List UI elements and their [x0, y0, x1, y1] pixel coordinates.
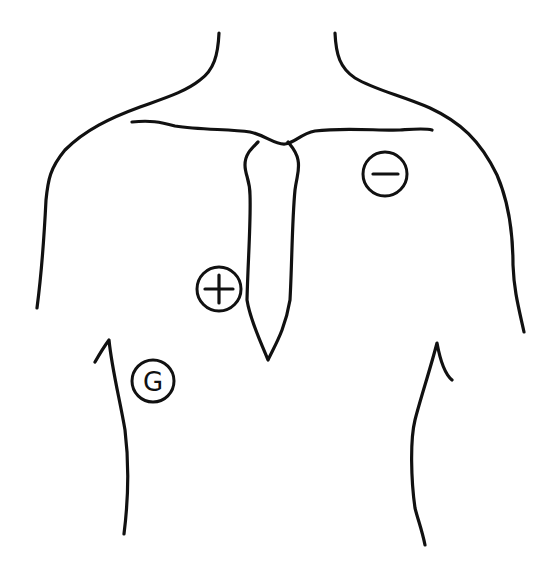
ground-electrode: G: [132, 360, 174, 402]
left-neck-shoulder-outline: [37, 33, 219, 308]
negative-electrode: [363, 152, 407, 196]
ground-electrode-label: G: [143, 367, 163, 397]
torso-diagram: G: [0, 0, 558, 580]
sternum-outline: [245, 142, 299, 360]
left-lower-flank: [95, 340, 128, 534]
right-lower-flank: [412, 343, 452, 545]
clavicle-line: [132, 121, 432, 144]
positive-electrode: [197, 267, 241, 311]
